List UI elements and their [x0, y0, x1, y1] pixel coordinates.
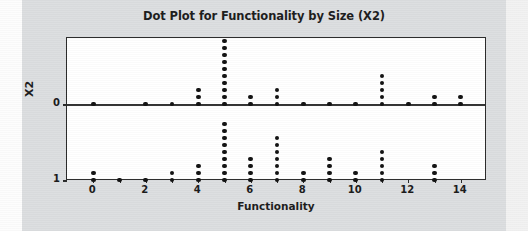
data-dot: [380, 95, 385, 100]
data-dot: [248, 102, 253, 107]
data-dot: [327, 178, 332, 183]
data-dot: [222, 143, 227, 148]
plot-frame: [66, 37, 486, 180]
data-dot: [380, 88, 385, 93]
y-axis-tick: [63, 104, 67, 106]
data-dot: [222, 102, 227, 107]
screenshot-root: Dot Plot for Functionality by Size (X2) …: [0, 0, 528, 231]
data-dot: [432, 171, 437, 176]
data-dot: [275, 171, 280, 176]
data-dot: [222, 178, 227, 183]
data-dot: [222, 150, 227, 155]
data-dot: [196, 95, 201, 100]
data-dot: [222, 39, 227, 44]
y-axis-tick: [63, 180, 67, 182]
data-dot: [301, 171, 306, 176]
data-dot: [301, 102, 306, 107]
x-axis-tick-label: 6: [235, 184, 265, 195]
data-dot: [406, 102, 411, 107]
data-dot: [222, 164, 227, 169]
plot-area: [67, 38, 485, 179]
data-dot: [380, 164, 385, 169]
data-dot: [275, 150, 280, 155]
data-dot: [432, 178, 437, 183]
data-dot: [196, 178, 201, 183]
data-dot: [248, 95, 253, 100]
data-dot: [222, 157, 227, 162]
data-dot: [275, 164, 280, 169]
data-dot: [380, 81, 385, 86]
data-dot: [327, 102, 332, 107]
x-axis-tick-label: 8: [287, 184, 317, 195]
x-axis-tick: [461, 179, 462, 183]
data-dot: [353, 171, 358, 176]
data-dot: [380, 74, 385, 79]
data-dot: [248, 171, 253, 176]
data-dot: [380, 157, 385, 162]
data-dot: [353, 102, 358, 107]
data-dot: [170, 102, 175, 107]
data-dot: [458, 102, 463, 107]
data-dot: [222, 67, 227, 72]
data-dot: [196, 102, 201, 107]
data-dot: [117, 178, 122, 183]
x-axis-tick-label: 2: [130, 184, 160, 195]
x-axis-tick-label: 12: [392, 184, 422, 195]
data-dot: [327, 171, 332, 176]
data-dot: [301, 178, 306, 183]
data-dot: [380, 150, 385, 155]
data-dot: [327, 157, 332, 162]
data-dot: [432, 95, 437, 100]
y-axis-tick-label: 0: [40, 97, 60, 108]
data-dot: [196, 171, 201, 176]
data-dot: [275, 136, 280, 141]
y-axis-label: X2: [23, 81, 36, 97]
data-dot: [91, 171, 96, 176]
data-dot: [222, 46, 227, 51]
page-right-margin: [506, 0, 528, 231]
data-dot: [170, 171, 175, 176]
x-axis-tick-label: 4: [182, 184, 212, 195]
data-dot: [275, 102, 280, 107]
data-dot: [275, 157, 280, 162]
x-axis-label: Functionality: [66, 200, 486, 212]
data-dot: [91, 102, 96, 107]
data-dot: [196, 88, 201, 93]
data-dot: [380, 102, 385, 107]
data-dot: [275, 88, 280, 93]
y-axis-tick-label: 1: [40, 173, 60, 184]
data-dot: [222, 60, 227, 65]
data-dot: [275, 95, 280, 100]
chart-title: Dot Plot for Functionality by Size (X2): [0, 9, 528, 23]
data-dot: [432, 102, 437, 107]
data-dot: [222, 171, 227, 176]
x-axis-tick: [408, 179, 409, 183]
x-axis-tick-label: 0: [77, 184, 107, 195]
data-dot: [327, 164, 332, 169]
data-dot: [432, 164, 437, 169]
data-dot: [196, 164, 201, 169]
data-dot: [222, 129, 227, 134]
data-dot: [222, 122, 227, 127]
data-dot: [222, 53, 227, 58]
data-dot: [380, 171, 385, 176]
page-left-margin: [0, 0, 22, 231]
data-dot: [275, 143, 280, 148]
data-dot: [91, 178, 96, 183]
x-axis-tick-label: 14: [445, 184, 475, 195]
data-dot: [222, 88, 227, 93]
data-dot: [222, 81, 227, 86]
data-dot: [458, 95, 463, 100]
data-dot: [222, 95, 227, 100]
x-axis-tick-label: 10: [340, 184, 370, 195]
data-dot: [248, 164, 253, 169]
data-dot: [222, 74, 227, 79]
data-dot: [248, 157, 253, 162]
data-dot: [143, 102, 148, 107]
data-dot: [222, 136, 227, 141]
